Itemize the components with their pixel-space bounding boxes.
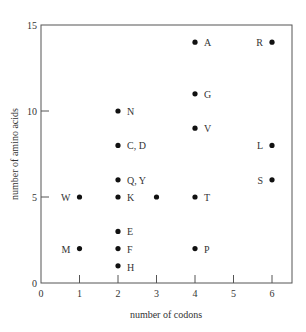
data-point-label: L	[257, 140, 263, 151]
data-point-label: M	[62, 244, 71, 255]
x-tick-label: 6	[270, 288, 275, 299]
data-point-label: K	[127, 192, 135, 203]
scatter-chart: 0123456 051015 ARGNVC, DLQ, YSWKTEMFPH n…	[0, 0, 306, 332]
data-point-marker	[115, 194, 120, 199]
data-point-marker	[192, 40, 197, 45]
data-point-marker	[269, 40, 274, 45]
data-point-marker	[115, 177, 120, 182]
x-tick-label: 0	[39, 288, 44, 299]
data-point-label: T	[204, 192, 210, 203]
x-tick-label: 3	[154, 288, 159, 299]
y-tick-label: 0	[32, 278, 37, 289]
data-point-marker	[154, 194, 159, 199]
x-axis-ticks: 0123456	[39, 275, 275, 299]
data-point-marker	[192, 246, 197, 251]
data-point-marker	[192, 126, 197, 131]
data-point-marker	[115, 143, 120, 148]
y-axis-ticks: 051015	[27, 20, 49, 289]
data-point-marker	[77, 194, 82, 199]
y-tick-label: 15	[27, 20, 37, 31]
data-point-label: E	[127, 226, 133, 237]
y-tick-label: 5	[32, 192, 37, 203]
plot-border	[41, 25, 292, 283]
data-point-label: W	[61, 192, 71, 203]
data-point-label: F	[127, 244, 133, 255]
x-tick-label: 1	[77, 288, 82, 299]
data-point-label: G	[204, 89, 211, 100]
data-point-label: A	[204, 37, 212, 48]
data-point-marker	[192, 194, 197, 199]
data-point-label: R	[256, 37, 263, 48]
y-tick-label: 10	[27, 106, 37, 117]
data-point-label: H	[127, 262, 134, 273]
data-point-label: C, D	[127, 140, 146, 151]
data-point-marker	[269, 143, 274, 148]
data-point-label: P	[204, 244, 210, 255]
data-point-label: Q, Y	[127, 175, 146, 186]
data-point-marker	[192, 91, 197, 96]
x-axis-title: number of codons	[130, 309, 202, 320]
data-point-marker	[115, 229, 120, 234]
x-tick-label: 4	[193, 288, 198, 299]
data-point-marker	[115, 263, 120, 268]
x-tick-label: 5	[231, 288, 236, 299]
data-point-label: N	[127, 106, 134, 117]
data-point-label: S	[257, 175, 263, 186]
data-point-label: V	[204, 123, 212, 134]
data-point-marker	[269, 177, 274, 182]
data-point-marker	[77, 246, 82, 251]
data-point-marker	[115, 246, 120, 251]
plot-frame	[41, 25, 292, 283]
data-points: ARGNVC, DLQ, YSWKTEMFPH	[61, 37, 275, 273]
y-axis-title: number of amino acids	[9, 108, 20, 200]
x-tick-label: 2	[116, 288, 121, 299]
data-point-marker	[115, 108, 120, 113]
